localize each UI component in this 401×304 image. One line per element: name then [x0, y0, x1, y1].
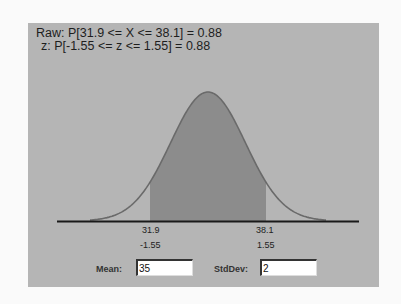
- mean-label: Mean:: [96, 264, 122, 274]
- stddev-input[interactable]: [260, 259, 317, 276]
- lower-raw-tick: 31.9: [142, 225, 160, 235]
- upper-raw-tick: 38.1: [256, 225, 274, 235]
- lower-z-tick: -1.55: [140, 240, 161, 250]
- stddev-label: StdDev:: [214, 264, 248, 274]
- normal-curve-plot: [28, 23, 379, 287]
- mean-input[interactable]: [136, 259, 193, 276]
- shaded-area: [150, 92, 266, 221]
- upper-z-tick: 1.55: [257, 240, 275, 250]
- normal-distribution-panel: Raw: P[31.9 <= X <= 38.1] = 0.88 z: P[-1…: [28, 23, 379, 287]
